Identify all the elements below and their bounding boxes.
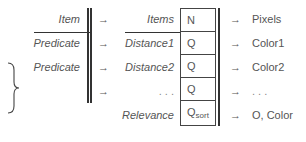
- box-cell-value: Q: [187, 60, 196, 72]
- arrow-icon: →: [230, 108, 241, 122]
- right-double-bar: [218, 8, 220, 126]
- middle-label-distance1: Distance1: [110, 36, 174, 50]
- box-cell-subscript: sort: [196, 111, 209, 120]
- box-cell-q1: Q: [180, 31, 216, 55]
- arrow-icon: →: [98, 36, 109, 50]
- arrow-icon: →: [230, 84, 241, 98]
- arrow-icon: →: [230, 12, 241, 26]
- box-cell-value: Q: [187, 106, 196, 118]
- right-label-color1: Color1: [252, 36, 284, 50]
- box-cell-qsort: Qsort: [180, 100, 216, 126]
- middle-label-ellipsis: . . .: [110, 84, 174, 98]
- left-label-predicate-2: Predicate: [10, 60, 80, 74]
- arrow-icon: →: [98, 12, 109, 26]
- left-double-bar-a: [87, 8, 89, 103]
- left-label-predicate-1: Predicate: [10, 36, 80, 50]
- right-label-ellipsis: . . .: [252, 84, 267, 98]
- right-label-pixels: Pixels: [252, 12, 281, 26]
- arrow-icon: →: [98, 60, 109, 74]
- middle-label-distance2: Distance2: [110, 60, 174, 74]
- box-cell-q2: Q: [180, 54, 216, 78]
- right-label-o-color: O, Color: [252, 108, 293, 122]
- arrow-icon: →: [98, 84, 109, 98]
- box-cell-n: N: [180, 8, 216, 32]
- left-header-divider: [34, 32, 90, 33]
- box-cell-value: Q: [187, 83, 196, 95]
- middle-header-divider: [125, 32, 181, 33]
- box-cell-value: Q: [187, 37, 196, 49]
- left-double-bar-b: [90, 8, 92, 103]
- middle-label-relevance: Relevance: [100, 108, 174, 122]
- left-label-item: Item: [10, 12, 80, 26]
- box-cell-q3: Q: [180, 77, 216, 101]
- box-cell-value: N: [187, 14, 195, 26]
- arrow-icon: →: [230, 36, 241, 50]
- right-label-color2: Color2: [252, 60, 284, 74]
- arrow-icon: →: [230, 60, 241, 74]
- middle-label-items: Items: [110, 12, 174, 26]
